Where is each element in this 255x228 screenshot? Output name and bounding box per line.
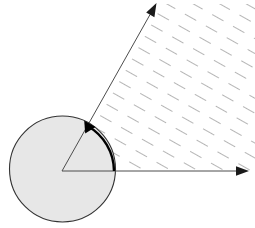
shaded-circle [10, 116, 116, 222]
geometry-diagram [0, 0, 255, 228]
figure-canvas [0, 0, 255, 228]
